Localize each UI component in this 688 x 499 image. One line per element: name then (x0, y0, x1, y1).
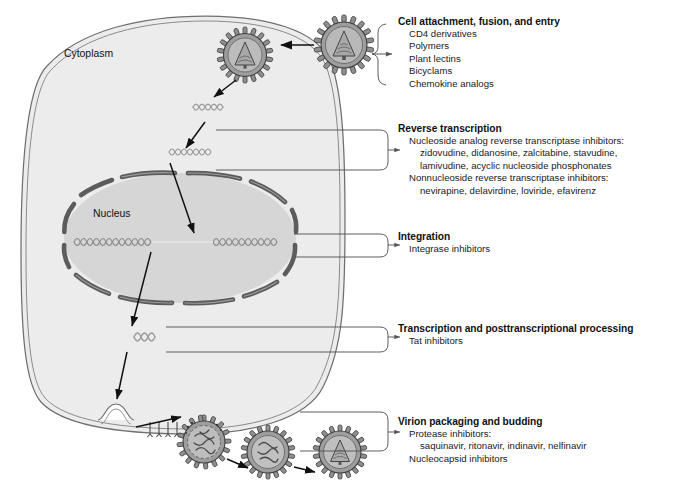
annotation-line: Nucleoside analog reverse transcriptase … (398, 135, 624, 147)
arrow-maturation (294, 467, 315, 472)
annotation-line: Protease inhibitors: (398, 428, 586, 440)
annotation-budding: Virion packaging and budding Protease in… (398, 415, 586, 465)
annotation-line: zidovudine, didanosine, zalcitabine, sta… (398, 147, 624, 159)
annotation-line: nevirapine, delavirdine, loviride, efavi… (398, 185, 624, 197)
annotation-attachment: Cell attachment, fusion, and entry CD4 d… (398, 15, 560, 90)
annotation-line: Tat inhibitors (398, 335, 633, 347)
virion-immature (241, 425, 295, 479)
annotation-heading: Virion packaging and budding (398, 415, 586, 428)
annotation-line: Chemokine analogs (398, 78, 560, 90)
annotation-line: saquinavir, ritonavir, indinavir, nelfin… (398, 440, 586, 452)
annotation-line: Plant lectins (398, 53, 560, 65)
annotation-line: Nucleocapsid inhibitors (398, 453, 586, 465)
annotation-line: Integrase inhibitors (398, 243, 490, 255)
annotation-heading: Cell attachment, fusion, and entry (398, 15, 560, 28)
annotation-heading: Reverse transcription (398, 122, 624, 135)
annotation-reverse-transcription: Reverse transcription Nucleoside analog … (398, 122, 624, 197)
annotation-line: Polymers (398, 40, 560, 52)
annotation-line: Bicyclams (398, 65, 560, 77)
annotation-line: lamivudine, acyclic nucleoside phosphona… (398, 160, 624, 172)
label-cytoplasm: Cytoplasm (64, 48, 113, 59)
virion-mature (313, 425, 367, 479)
annotation-integration: Integration Integrase inhibitors (398, 230, 490, 255)
annotation-heading: Transcription and posttranscriptional pr… (398, 322, 633, 335)
figure-canvas: Cytoplasm Nucleus Cell attachment, fusio… (0, 0, 688, 499)
annotation-line: Nonnucleoside reverse transcriptase inhi… (398, 172, 624, 184)
annotation-transcription: Transcription and posttranscriptional pr… (398, 322, 633, 347)
label-nucleus: Nucleus (93, 208, 131, 219)
annotation-heading: Integration (398, 230, 490, 243)
annotation-line: CD4 derivatives (398, 28, 560, 40)
